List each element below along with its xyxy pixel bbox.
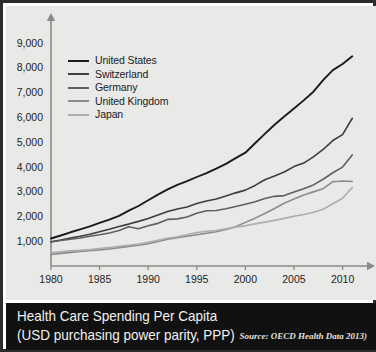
legend-line-swatch [68, 100, 89, 102]
chart-figure: 1,0002,0003,0004,0005,0006,0007,0008,000… [0, 0, 376, 352]
x-axis-tick-label: 1995 [185, 273, 209, 285]
x-axis-tick-label: 2010 [331, 273, 355, 285]
series-line [51, 187, 352, 252]
x-axis-tick-label: 2000 [234, 273, 258, 285]
line-chart-svg: 1,0002,0003,0004,0005,0006,0007,0008,000… [6, 6, 376, 300]
source-attribution: Source: OECD Health Data 2013) [239, 331, 367, 341]
y-axis-tick-label: 9,000 [17, 37, 43, 49]
legend-line-swatch [68, 73, 89, 75]
y-axis-tick-label: 8,000 [17, 61, 43, 73]
x-axis-tick-label: 2005 [282, 273, 306, 285]
y-axis-tick-label: 4,000 [17, 161, 43, 173]
y-axis-tick-label: 1,000 [17, 235, 43, 247]
x-axis-tick-label: 1980 [39, 273, 63, 285]
chart-plot-panel: 1,0002,0003,0004,0005,0006,0007,0008,000… [6, 6, 376, 300]
series-line [51, 155, 352, 242]
legend-item-label: Japan [95, 108, 123, 122]
legend-item: United Kingdom [68, 95, 188, 109]
x-axis-arrowhead [367, 262, 375, 270]
legend-line-swatch [68, 114, 89, 116]
y-axis-tick-label: 3,000 [17, 185, 43, 197]
banner-title-block: Health Care Spending Per Capita (USD pur… [17, 307, 235, 345]
legend-line-swatch [68, 60, 89, 62]
y-axis-tick-label: 2,000 [17, 210, 43, 222]
legend-item-label: Germany [95, 81, 137, 95]
y-axis-tick-label: 6,000 [17, 111, 43, 123]
chart-legend: United StatesSwitzerlandGermanyUnited Ki… [68, 54, 188, 122]
x-axis-tick-label: 1990 [137, 273, 161, 285]
legend-item: United States [68, 54, 188, 68]
legend-item-label: United Kingdom [95, 95, 168, 109]
chart-title-banner: Health Care Spending Per Capita (USD pur… [6, 303, 376, 350]
legend-item-label: Switzerland [95, 68, 148, 82]
legend-item: Germany [68, 81, 188, 95]
banner-title-line1: Health Care Spending Per Capita [17, 307, 235, 326]
legend-line-swatch [68, 87, 89, 89]
legend-item: Switzerland [68, 68, 188, 82]
legend-item-label: United States [95, 54, 157, 68]
banner-title-line2: (USD purchasing power parity, PPP) [17, 326, 235, 345]
y-axis-arrowhead [47, 13, 55, 21]
y-axis-tick-label: 5,000 [17, 136, 43, 148]
series-line [51, 181, 352, 254]
legend-item: Japan [68, 108, 188, 122]
y-axis-tick-label: 7,000 [17, 86, 43, 98]
x-axis-tick-label: 1985 [88, 273, 112, 285]
